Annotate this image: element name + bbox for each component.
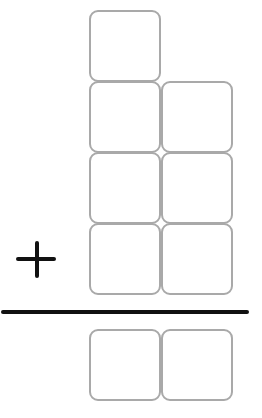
answer-box-ones[interactable]: [161, 329, 233, 401]
digit-box-row3-tens[interactable]: [89, 152, 161, 224]
digit-box-row2-tens[interactable]: [89, 81, 161, 153]
digit-box-row2-ones[interactable]: [161, 81, 233, 153]
digit-box-row3-ones[interactable]: [161, 152, 233, 224]
sum-line: [1, 310, 249, 314]
digit-box-row1-tens[interactable]: [89, 10, 161, 82]
digit-box-row4-ones[interactable]: [161, 223, 233, 295]
digit-box-row4-tens[interactable]: [89, 223, 161, 295]
answer-box-tens[interactable]: [89, 329, 161, 401]
plus-icon-vertical: [35, 241, 39, 278]
